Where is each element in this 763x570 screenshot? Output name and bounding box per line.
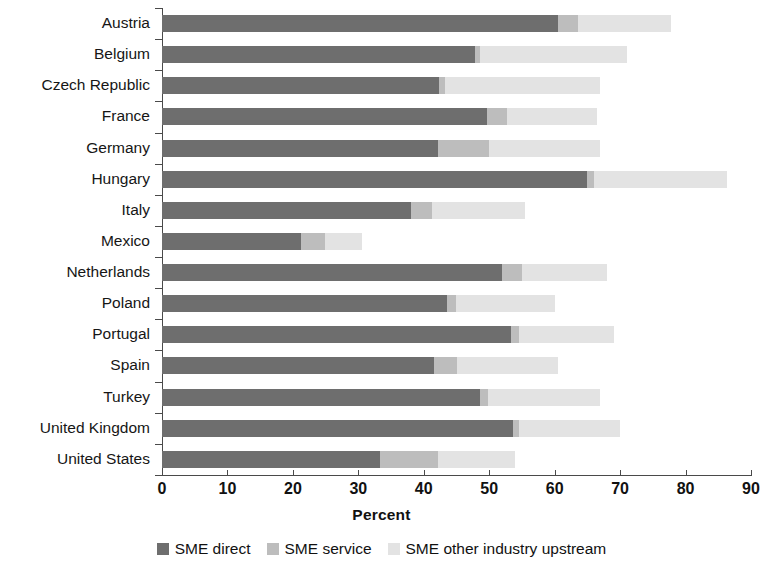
bar-row [162, 319, 751, 350]
x-axis-line [162, 475, 751, 476]
y-tick [155, 257, 162, 258]
bar-row [162, 8, 751, 39]
bar-segment-1 [447, 295, 457, 312]
x-tick [620, 470, 621, 476]
bar-row [162, 350, 751, 381]
x-tick [162, 470, 163, 476]
x-tick-label: 0 [158, 480, 167, 498]
y-label-hungary: Hungary [0, 171, 150, 187]
y-tick [155, 350, 162, 351]
bar-segment-2 [480, 46, 627, 63]
y-tick [155, 8, 162, 9]
legend-item-0[interactable]: SME direct [157, 540, 251, 558]
x-tick [424, 470, 425, 476]
bars-container [162, 8, 751, 475]
legend-label: SME other industry upstream [406, 540, 607, 558]
bar-segment-2 [456, 295, 554, 312]
y-tick [155, 101, 162, 102]
x-tick [358, 470, 359, 476]
stacked-bar [162, 140, 600, 157]
y-tick [155, 413, 162, 414]
y-label-france: France [0, 108, 150, 124]
bar-segment-2 [432, 202, 525, 219]
bar-segment-1 [434, 357, 457, 374]
x-tick-label: 90 [742, 480, 760, 498]
y-tick [155, 70, 162, 71]
stacked-bar [162, 233, 362, 250]
x-tick-label: 50 [480, 480, 498, 498]
bar-segment-2 [325, 233, 362, 250]
y-label-poland: Poland [0, 295, 150, 311]
bar-segment-1 [558, 15, 578, 32]
legend-item-1[interactable]: SME service [267, 540, 372, 558]
stacked-bar [162, 77, 600, 94]
bar-segment-0 [162, 46, 475, 63]
stacked-bar-chart: AustriaBelgiumCzech RepublicFranceGerman… [0, 0, 763, 570]
bar-segment-1 [380, 451, 438, 468]
x-tick [489, 470, 490, 476]
x-tick [555, 470, 556, 476]
bar-segment-2 [519, 420, 620, 437]
stacked-bar [162, 171, 727, 188]
y-tick [155, 288, 162, 289]
bar-segment-1 [411, 202, 433, 219]
stacked-bar [162, 264, 607, 281]
bar-segment-0 [162, 295, 447, 312]
legend-swatch-icon [267, 543, 279, 555]
y-tick [155, 226, 162, 227]
bar-segment-2 [594, 171, 728, 188]
bar-row [162, 288, 751, 319]
x-tick-label: 80 [677, 480, 695, 498]
bar-segment-0 [162, 326, 511, 343]
bar-segment-2 [457, 357, 558, 374]
bar-segment-0 [162, 389, 480, 406]
bar-segment-1 [502, 264, 522, 281]
stacked-bar [162, 420, 620, 437]
x-tick-label: 60 [546, 480, 564, 498]
y-tick [155, 475, 162, 476]
bar-segment-0 [162, 357, 434, 374]
legend-item-2[interactable]: SME other industry upstream [388, 540, 607, 558]
bar-segment-1 [438, 140, 489, 157]
bar-row [162, 226, 751, 257]
chart-legend: SME directSME serviceSME other industry … [0, 540, 763, 558]
bar-segment-2 [507, 108, 597, 125]
bar-segment-0 [162, 420, 513, 437]
legend-label: SME service [285, 540, 372, 558]
bar-segment-0 [162, 108, 487, 125]
bar-segment-0 [162, 264, 502, 281]
stacked-bar [162, 46, 627, 63]
stacked-bar [162, 451, 515, 468]
bar-segment-0 [162, 202, 411, 219]
bar-row [162, 39, 751, 70]
y-label-italy: Italy [0, 202, 150, 218]
y-label-portugal: Portugal [0, 326, 150, 342]
x-tick [227, 470, 228, 476]
bar-row [162, 195, 751, 226]
y-label-turkey: Turkey [0, 389, 150, 405]
bar-segment-0 [162, 171, 587, 188]
bar-segment-1 [480, 389, 488, 406]
bar-segment-0 [162, 140, 438, 157]
x-tick-label: 70 [611, 480, 629, 498]
y-tick [155, 39, 162, 40]
bar-row [162, 413, 751, 444]
x-tick [293, 470, 294, 476]
stacked-bar [162, 357, 558, 374]
x-tick-label: 20 [284, 480, 302, 498]
bar-segment-0 [162, 77, 439, 94]
y-label-united-states: United States [0, 451, 150, 467]
bar-row [162, 382, 751, 413]
bar-segment-2 [578, 15, 672, 32]
x-tick [751, 470, 752, 476]
bar-segment-2 [445, 77, 600, 94]
legend-swatch-icon [388, 543, 400, 555]
bar-segment-1 [487, 108, 507, 125]
y-tick [155, 382, 162, 383]
y-label-belgium: Belgium [0, 46, 150, 62]
y-label-mexico: Mexico [0, 233, 150, 249]
y-tick [155, 444, 162, 445]
bar-row [162, 257, 751, 288]
bar-segment-2 [488, 389, 601, 406]
bar-segment-2 [438, 451, 516, 468]
